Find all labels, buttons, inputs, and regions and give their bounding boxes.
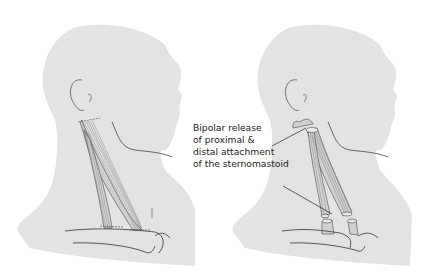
left-head-silhouette	[17, 25, 195, 266]
annotation-line-3: distal attachment	[193, 146, 289, 158]
annotation-line-1: Bipolar release	[193, 122, 289, 134]
annotation-line-4: of the sternomastoid	[193, 158, 289, 170]
annotation-label: Bipolar release of proximal & distal att…	[193, 122, 289, 170]
sternomastoid-release-figure: Bipolar release of proximal & distal att…	[0, 0, 431, 280]
annotation-line-2: of proximal &	[193, 134, 289, 146]
